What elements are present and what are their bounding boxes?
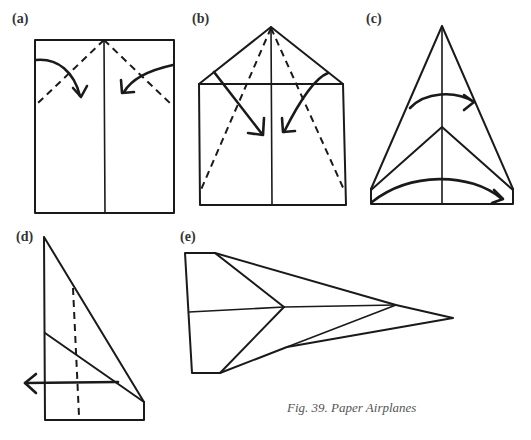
center-crease bbox=[104, 40, 105, 213]
fold-arrow-left-icon bbox=[214, 72, 262, 134]
center-crease bbox=[271, 27, 272, 205]
fold-line-right bbox=[104, 40, 173, 106]
panel-a-diagram bbox=[35, 40, 174, 213]
fold-arrow-left-icon bbox=[36, 60, 80, 96]
fuselage-line bbox=[189, 307, 284, 312]
fuselage-line-front bbox=[284, 305, 396, 307]
wing-crease-upper bbox=[215, 253, 284, 307]
lower-wing-crease bbox=[287, 305, 396, 347]
diagram-canvas bbox=[0, 0, 531, 440]
fold-arrow-right-icon bbox=[124, 65, 173, 92]
panel-c-diagram bbox=[371, 26, 513, 204]
fold-line-left bbox=[200, 28, 271, 192]
paper-airplanes-figure: (a) (b) (c) (d) (e) bbox=[0, 0, 531, 440]
fold-line-left bbox=[38, 40, 104, 103]
panel-b-diagram bbox=[199, 27, 346, 205]
fold-arrow-bottom-icon bbox=[372, 179, 502, 202]
fold-line-right bbox=[271, 28, 345, 192]
fold-arrow-icon bbox=[25, 382, 118, 383]
panel-d-diagram bbox=[25, 237, 144, 420]
wing-crease-lower bbox=[220, 307, 284, 373]
figure-caption: Fig. 39. Paper Airplanes bbox=[287, 400, 416, 416]
fold-arrow-right-icon bbox=[284, 73, 328, 132]
airplane-outline bbox=[185, 253, 453, 373]
panel-e-diagram bbox=[185, 253, 453, 373]
wing-edge bbox=[45, 333, 144, 402]
